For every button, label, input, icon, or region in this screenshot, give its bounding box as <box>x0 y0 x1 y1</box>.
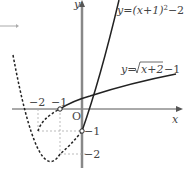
sqrt-dashed <box>38 109 60 131</box>
arrow-icon <box>16 24 19 28</box>
sqrt-label-radicand: x+2 <box>141 63 163 76</box>
origin-label: O <box>72 110 81 123</box>
tick-y-neg1: −1 <box>84 125 100 138</box>
parabola-solid <box>82 0 119 131</box>
sqrt-solid <box>60 74 176 109</box>
tick-x-neg2: −2 <box>29 96 45 109</box>
sqrt-label-prefix: y= <box>120 63 136 76</box>
tick-y-neg2: −2 <box>84 148 100 161</box>
y-axis-label: y <box>73 0 81 11</box>
function-graph: y x O −2 −1 −1 −2 y=(x+1)2−2 y= x+2 −1 <box>0 0 184 182</box>
parabola-dashed <box>13 55 82 162</box>
tick-x-neg1: −1 <box>51 96 67 109</box>
parabola-equation-label: y=(x+1)2−2 <box>116 4 184 17</box>
x-axis-label: x <box>172 113 179 126</box>
sqrt-label-tail: −1 <box>164 63 180 76</box>
x-axis-arrow-icon <box>176 106 183 112</box>
